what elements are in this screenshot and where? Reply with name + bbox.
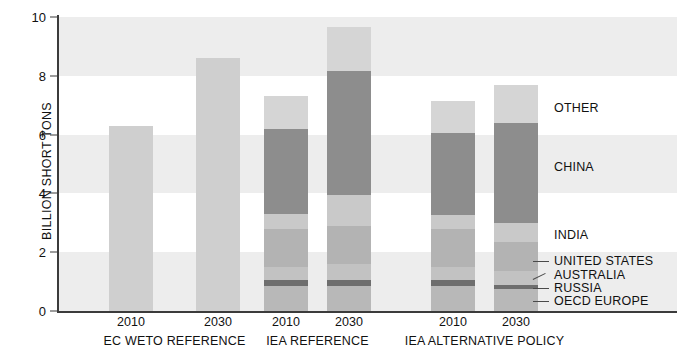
- bar[interactable]: [196, 58, 240, 311]
- bar-segment: [264, 229, 308, 267]
- bar-segment: [431, 215, 475, 228]
- bar-segment: [327, 71, 371, 194]
- bar-segment: [494, 123, 538, 223]
- y-axis-ticks: 1086420: [0, 0, 58, 357]
- bar[interactable]: [264, 96, 308, 311]
- y-axis-tick-label: 4: [39, 186, 46, 201]
- legend-label-india: INDIA: [554, 228, 588, 242]
- x-axis-group-label: IEA ALTERNATIVE POLICY: [365, 334, 605, 348]
- legend-leader-line: [533, 288, 549, 289]
- legend-label-russia: RUSSIA: [554, 281, 602, 295]
- bar-segment: [264, 96, 308, 128]
- bar-segment: [494, 289, 538, 311]
- bar-segment: [327, 264, 371, 280]
- y-axis-tick-mark: [50, 75, 57, 76]
- x-axis-bar-label: 2010: [86, 315, 176, 329]
- legend-label-australia: AUSTRALIA: [554, 268, 625, 282]
- legend-label-china: CHINA: [554, 160, 594, 174]
- y-axis-tick-label: 6: [39, 127, 46, 142]
- bar-segment: [494, 223, 538, 242]
- bar-segment: [264, 214, 308, 229]
- bar[interactable]: [327, 27, 371, 311]
- bar-segment: [264, 280, 308, 286]
- x-axis-bar-label: 2030: [471, 315, 561, 329]
- bar-segment: [494, 285, 538, 289]
- y-axis-tick-label: 0: [39, 304, 46, 319]
- bar-segment: [431, 133, 475, 215]
- bar-segment: [431, 101, 475, 133]
- bar[interactable]: [431, 101, 475, 311]
- bar[interactable]: [109, 126, 153, 311]
- bar-segment: [327, 280, 371, 286]
- y-axis-tick-mark: [50, 17, 57, 18]
- bar-segment: [494, 85, 538, 123]
- bar-segment: [431, 229, 475, 267]
- y-axis-tick-label: 8: [39, 68, 46, 83]
- bar-segment: [327, 195, 371, 226]
- y-axis-tick-mark: [50, 252, 57, 253]
- bar-segment: [431, 267, 475, 280]
- bar-segment: [327, 226, 371, 264]
- y-axis-tick-label: 2: [39, 245, 46, 260]
- bar-segment: [494, 242, 538, 271]
- bar-segment: [264, 129, 308, 214]
- y-axis-line: [57, 15, 59, 313]
- legend-label-oecd-europe: OECD EUROPE: [554, 294, 649, 308]
- bar-segment: [494, 271, 538, 284]
- bar-segment: [431, 286, 475, 311]
- bar-segment: [264, 267, 308, 280]
- bar-segment: [109, 126, 153, 311]
- y-axis-tick-mark: [50, 311, 57, 312]
- bar[interactable]: [494, 85, 538, 311]
- y-axis-tick-mark: [50, 134, 57, 135]
- bar-segment: [196, 58, 240, 311]
- legend-label-united-states: UNITED STATES: [554, 254, 653, 268]
- bar-segment: [431, 280, 475, 286]
- legend-leader-line: [533, 261, 549, 262]
- x-axis-line: [57, 311, 677, 313]
- legend-leader-line: [533, 301, 549, 302]
- y-axis-tick-label: 10: [32, 10, 46, 25]
- y-axis-tick-mark: [50, 193, 57, 194]
- bar-segment: [264, 286, 308, 311]
- legend-label-other: OTHER: [554, 101, 599, 115]
- bar-segment: [327, 27, 371, 71]
- bar-segment: [327, 286, 371, 311]
- x-axis-bar-label: 2030: [304, 315, 394, 329]
- chart-container: BILLION SHORT TONS 1086420 2010203020102…: [0, 0, 677, 357]
